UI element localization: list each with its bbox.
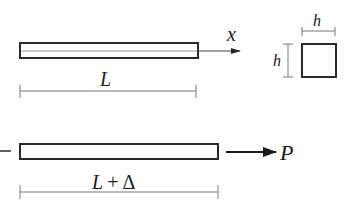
label-delta: Δ: [122, 171, 135, 193]
square-section: [302, 44, 336, 77]
deformed-bar: [0, 144, 218, 159]
length-dimension: L: [20, 68, 196, 98]
undeformed-bar: [20, 43, 198, 58]
force-label: P: [279, 140, 293, 165]
bar-elongation-diagram: x L h h P L+Δ: [0, 0, 348, 207]
elongated-length-label: L+Δ: [91, 171, 135, 193]
x-axis-label: x: [226, 23, 236, 45]
label-L: L: [91, 171, 103, 193]
width-label: h: [313, 12, 321, 29]
length-label: L: [99, 68, 111, 90]
cross-section: h h: [273, 12, 336, 77]
force-p: P: [226, 140, 293, 165]
x-axis: x: [198, 23, 240, 51]
height-label: h: [273, 52, 281, 69]
label-plus: +: [107, 171, 118, 193]
bar-rect: [20, 144, 218, 159]
elongated-length-dimension: L+Δ: [20, 171, 218, 199]
